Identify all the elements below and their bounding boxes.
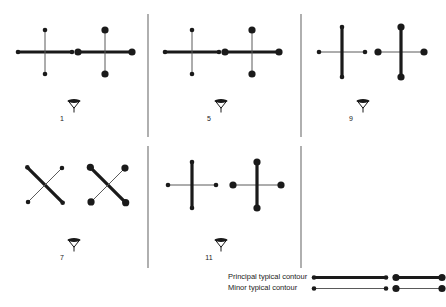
legend-row-minor: Minor typical contour — [228, 282, 444, 293]
endpoint-dot-north — [253, 158, 260, 165]
endpoint-dot-east — [420, 48, 427, 55]
endpoint-dot-nw — [25, 165, 30, 170]
endpoint-dot-west — [166, 183, 171, 188]
endpoint-dot-north — [397, 23, 404, 30]
endpoint-dot-west — [374, 48, 381, 55]
endpoint-dot-se — [60, 200, 65, 205]
endpoint-dot-north — [248, 26, 255, 33]
endpoint-dot-east — [363, 50, 368, 55]
endpoint-dot-west — [16, 50, 21, 55]
panel-11 — [166, 158, 285, 251]
panel-label-1: 1 — [47, 115, 77, 122]
cross-small-dots — [317, 25, 368, 80]
endpoint-dot-south — [43, 72, 48, 77]
cross-large-dots — [74, 26, 135, 77]
panel-5 — [163, 26, 283, 112]
legend-row-principal: Principal typical contour — [228, 271, 444, 282]
legend-label-minor: Minor typical contour — [228, 282, 316, 293]
endpoint-dot-south — [253, 204, 260, 211]
endpoint-dot-ne — [121, 164, 128, 171]
endpoint-dot-west — [229, 181, 236, 188]
cross-large-dots — [229, 158, 284, 211]
endpoint-dot-east — [217, 50, 222, 55]
endpoint-dot-east — [70, 50, 75, 55]
endpoint-dot-south — [101, 70, 108, 77]
cross-large-dots — [374, 23, 427, 80]
endpoint-dot-south — [340, 75, 345, 80]
endpoint-dot-west — [74, 48, 81, 55]
endpoint-dot-north — [340, 25, 345, 30]
panel-9 — [317, 23, 428, 112]
cross-large-dots — [221, 26, 282, 77]
endpoint-dot-south — [248, 70, 255, 77]
panel-label-7: 7 — [47, 254, 77, 261]
panel-label-9: 9 — [336, 115, 366, 122]
endpoint-dot-north — [190, 160, 195, 165]
endpoint-dot-east — [275, 48, 282, 55]
endpoint-dot-ne — [60, 166, 65, 171]
cross-small-dots — [163, 28, 222, 77]
panel-7 — [25, 164, 129, 252]
panel-1-marker — [68, 99, 81, 112]
legend-samples-principal — [316, 271, 444, 282]
diagonal-cross-large-dots — [87, 164, 130, 207]
diagonal-cross-small-dots — [25, 165, 65, 205]
endpoint-dot-sw — [87, 198, 94, 205]
endpoint-dot-east — [214, 183, 219, 188]
legend: Principal typical contour Minor typical … — [228, 271, 444, 293]
panel-1 — [16, 26, 136, 112]
endpoint-dot-sw — [26, 200, 31, 205]
endpoint-dot-east — [277, 181, 284, 188]
endpoint-dot-se — [122, 199, 129, 206]
endpoint-dot-south — [397, 73, 404, 80]
panel-label-11: 11 — [194, 254, 224, 261]
cross-small-dots — [166, 160, 219, 211]
endpoint-dot-west — [317, 50, 322, 55]
endpoint-dot-north — [101, 26, 108, 33]
endpoint-dot-south — [190, 206, 195, 211]
endpoint-dot-west — [163, 50, 168, 55]
endpoint-dot-nw — [87, 164, 94, 171]
endpoint-dot-north — [43, 28, 48, 33]
figure-container: 1 5 9 7 11 Principal typical contour Min… — [0, 0, 446, 307]
endpoint-dot-west — [221, 48, 228, 55]
endpoint-dot-north — [190, 28, 195, 33]
endpoint-dot-east — [128, 48, 135, 55]
legend-label-principal: Principal typical contour — [228, 271, 316, 282]
panel-label-5: 5 — [194, 115, 224, 122]
endpoint-dot-south — [190, 72, 195, 77]
panel-11-marker — [215, 238, 228, 251]
cross-small-dots — [16, 28, 75, 77]
panel-7-marker — [68, 238, 81, 251]
legend-samples-minor — [316, 282, 444, 293]
panel-9-marker — [357, 99, 370, 112]
panel-5-marker — [215, 99, 228, 112]
